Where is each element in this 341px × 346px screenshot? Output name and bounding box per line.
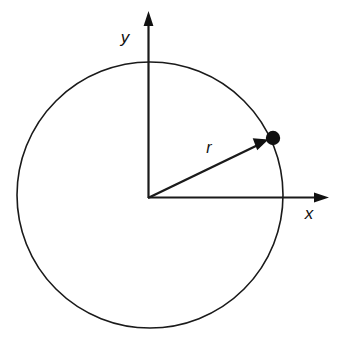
particle-dot [266,131,280,145]
radius-vector-arrow-icon [253,138,269,150]
radius-vector-line [148,145,259,199]
radius-label: r [206,139,212,156]
x-axis-label: x [304,204,314,223]
circle-diagram-figure: y x r [0,0,341,346]
circle-path [17,62,283,328]
y-axis-label: y [120,28,131,47]
y-axis-arrow-icon [144,11,154,26]
x-axis-arrow-icon [314,192,329,202]
diagram-canvas: y x r [0,0,341,346]
